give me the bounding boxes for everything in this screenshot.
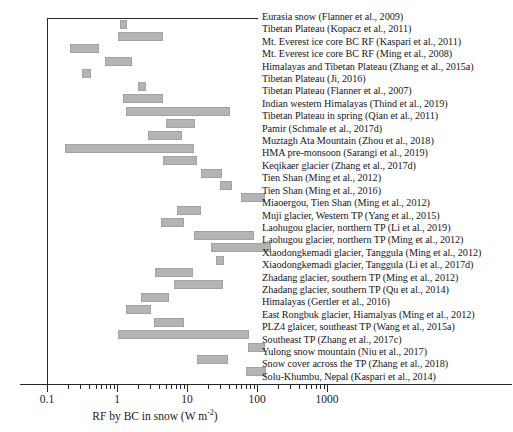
study-label: Laohugou glacier, northern TP (Li et al.…	[262, 222, 513, 234]
range-bar	[194, 231, 254, 240]
range-bar	[148, 131, 182, 140]
study-label: Keqikaer glacier (Zhang et al., 2017d)	[262, 160, 513, 172]
x-tick-major	[257, 385, 258, 392]
range-bar	[118, 32, 163, 41]
study-label: HMA pre-monsoon (Sarangi et al., 2019)	[262, 147, 513, 159]
x-axis-title-tail: )	[214, 410, 218, 422]
x-tick-minor	[208, 385, 209, 389]
range-bar	[174, 280, 223, 289]
x-tick-minor	[299, 385, 300, 389]
x-tick-minor	[290, 385, 291, 389]
range-bar	[138, 82, 146, 91]
x-tick-minor	[166, 385, 167, 389]
study-label: Himalayas and Tibetan Plateau (Zhang et …	[262, 61, 513, 73]
x-tick-minor	[184, 385, 185, 389]
x-tick-label: 100	[248, 393, 265, 406]
study-label: Tien Shan (Ming et al., 2012)	[262, 172, 513, 184]
study-label: PLZ4 glaicer, southeast TP (Wang et al.,…	[262, 321, 513, 333]
x-tick-minor	[96, 385, 97, 389]
range-bar	[201, 169, 222, 178]
study-label: Yulong snow mountain (Niu et al., 2017)	[262, 346, 513, 358]
range-bar	[141, 293, 169, 302]
x-tick-minor	[236, 385, 237, 389]
range-bar	[166, 119, 195, 128]
range-bar	[197, 355, 227, 364]
study-label: Indian western Himalayas (Thind et al., …	[262, 98, 513, 110]
x-tick-label: 1	[114, 393, 120, 406]
study-label: Tibetan Plateau (Ji, 2016)	[262, 73, 513, 85]
x-tick-minor	[114, 385, 115, 389]
study-label: Eurasia snow (Flanner et al., 2009)	[262, 11, 513, 23]
range-bar	[163, 156, 198, 165]
x-axis-title-exponent: -2	[207, 408, 214, 417]
x-tick-major	[117, 385, 118, 392]
range-bar	[220, 181, 232, 190]
x-tick-minor	[324, 385, 325, 389]
x-tick-minor	[306, 385, 307, 389]
x-tick-minor	[176, 385, 177, 389]
study-label: Southeast TP (Zhang et al., 2017c)	[262, 334, 513, 346]
x-tick-minor	[110, 385, 111, 389]
plot-frame-left-rule	[47, 18, 48, 385]
study-label: Mt. Everest ice core BC RF (Ming et al.,…	[262, 48, 513, 60]
study-label: Xiaodongkemadi glacier, Tanggula (Li et …	[262, 259, 513, 271]
study-label: Pamir (Schmale et al., 2017d)	[262, 123, 513, 135]
range-bar	[177, 206, 201, 215]
x-tick-label: 1000	[316, 393, 339, 406]
study-label: Muji glacier, Western TP (Yang et al., 2…	[262, 210, 513, 222]
x-tick-minor	[80, 385, 81, 389]
range-bar	[161, 218, 183, 227]
study-label: Tibetan Plateau (Kopacz et al., 2011)	[262, 23, 513, 35]
range-bar	[70, 44, 100, 53]
x-tick-minor	[241, 385, 242, 389]
range-bar	[126, 107, 230, 116]
range-bar	[123, 94, 163, 103]
study-label: Xiaodongkemadi glacier, Tanggula (Ming e…	[262, 247, 513, 259]
x-tick-major	[47, 385, 48, 392]
range-bar	[105, 57, 132, 66]
x-tick-minor	[159, 385, 160, 389]
study-label: Himalayas (Gertler et al., 2016)	[262, 296, 513, 308]
study-label: Muztagh Ata Mountain (Zhou et al., 2018)	[262, 135, 513, 147]
x-tick-label: 0.1	[40, 393, 54, 406]
range-bar	[65, 144, 194, 153]
x-tick-minor	[320, 385, 321, 389]
study-label: Miaoergou, Tien Shan (Ming et al., 2012)	[262, 197, 513, 209]
x-tick-minor	[246, 385, 247, 389]
x-tick-minor	[106, 385, 107, 389]
x-axis-title-main: RF by BC in snow (W m	[92, 410, 207, 422]
study-label: Snow cover across the TP (Zhang et al., …	[262, 358, 513, 370]
study-label: Tibetan Plateau (Flanner et al., 2007)	[262, 85, 513, 97]
x-tick-minor	[316, 385, 317, 389]
x-tick-minor	[89, 385, 90, 389]
x-tick-minor	[220, 385, 221, 389]
x-tick-minor	[254, 385, 255, 389]
range-bar	[154, 318, 184, 327]
x-tick-minor	[229, 385, 230, 389]
range-bar	[155, 268, 192, 277]
range-bar	[118, 330, 248, 339]
x-tick-minor	[68, 385, 69, 389]
x-tick-minor	[311, 385, 312, 389]
range-bar	[216, 256, 224, 265]
x-tick-minor	[171, 385, 172, 389]
range-bar	[126, 305, 151, 314]
range-bar	[82, 69, 90, 78]
x-tick-minor	[150, 385, 151, 389]
study-label: East Rongbuk glacier, Hiamalyas (Ming et…	[262, 309, 513, 321]
study-label: Zhadang glacier, southern TP (Ming et al…	[262, 272, 513, 284]
x-tick-label: 10	[181, 393, 193, 406]
x-tick-minor	[278, 385, 279, 389]
study-label: Tibetan Plateau in spring (Qian et al., …	[262, 110, 513, 122]
study-label-column: Eurasia snow (Flanner et al., 2009)Tibet…	[262, 11, 513, 383]
x-tick-minor	[250, 385, 251, 389]
study-label: Mt. Everest ice core BC RF (Kaspari et a…	[262, 36, 513, 48]
study-label: Laohugou glacier, northern TP (Ming et a…	[262, 234, 513, 246]
range-bar	[120, 20, 128, 29]
x-axis-line	[20, 384, 512, 385]
x-tick-minor	[101, 385, 102, 389]
figure-radiative-forcing-chart: 0.11101001000 RF by BC in snow (W m-2) E…	[0, 0, 513, 432]
study-label: Zhadang glacier, southern TP (Qu et al.,…	[262, 284, 513, 296]
x-tick-major	[187, 385, 188, 392]
x-tick-minor	[138, 385, 139, 389]
